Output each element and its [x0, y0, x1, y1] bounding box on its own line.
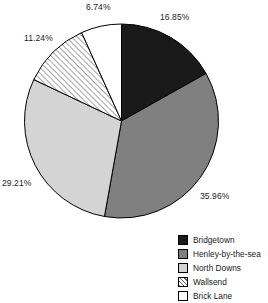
legend-swatch-wallsend: [178, 277, 188, 287]
legend-item-brick-lane[interactable]: Brick Lane: [178, 289, 268, 303]
legend-swatch-henley: [178, 249, 188, 259]
legend-label-henley: Henley-by-the-sea: [193, 249, 261, 259]
chart-legend: Bridgetown Henley-by-the-sea North Downs…: [178, 233, 268, 303]
legend-label-north-downs: North Downs: [193, 263, 241, 273]
legend-swatch-north-downs: [178, 263, 188, 273]
legend-label-brick-lane: Brick Lane: [193, 291, 232, 301]
legend-item-henley[interactable]: Henley-by-the-sea: [178, 247, 268, 261]
legend-item-north-downs[interactable]: North Downs: [178, 261, 268, 275]
pie-chart-figure: 16.85% 35.96% 29.21% 11.24% 6.74% Bridge…: [0, 0, 268, 303]
slice-value-label-wallsend: 11.24%: [24, 33, 53, 43]
slice-value-label-henley: 35.96%: [200, 191, 229, 201]
legend-swatch-bridgetown: [178, 235, 188, 245]
legend-label-bridgetown: Bridgetown: [193, 235, 235, 245]
legend-item-bridgetown[interactable]: Bridgetown: [178, 233, 268, 247]
legend-item-wallsend[interactable]: Wallsend: [178, 275, 268, 289]
slice-value-label-north-downs: 29.21%: [2, 178, 31, 188]
slice-value-label-bridgetown: 16.85%: [160, 12, 189, 22]
legend-swatch-brick-lane: [178, 291, 188, 301]
legend-label-wallsend: Wallsend: [193, 277, 227, 287]
slice-value-label-brick-lane: 6.74%: [86, 2, 111, 12]
